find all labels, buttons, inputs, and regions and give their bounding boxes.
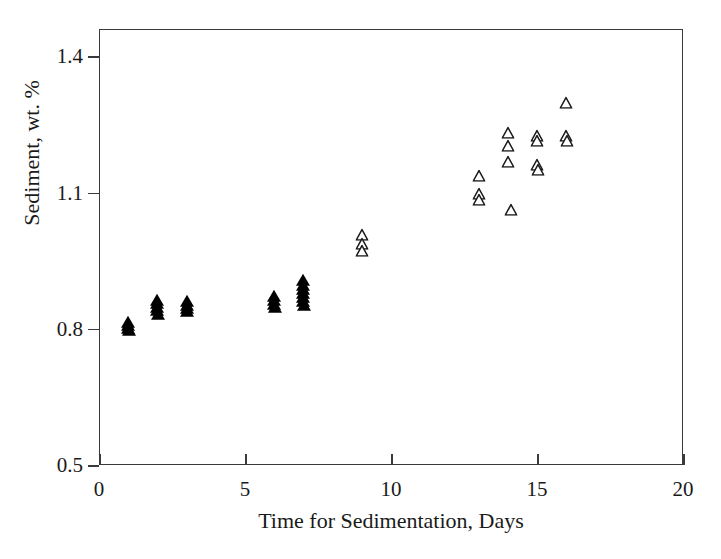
data-point-open-triangle-icon [504,203,517,215]
x-axis-label: Time for Sedimentation, Days [99,508,683,534]
y-tick-mark [88,56,99,58]
data-point-filled-triangle-icon [180,305,194,317]
x-tick-label: 20 [673,477,694,502]
y-tick-label: 0.5 [57,453,83,478]
y-axis-label: Sediment, wt. % [19,43,45,263]
data-point-open-triangle-icon [356,245,369,257]
x-tick-label: 5 [240,477,251,502]
x-tick-label: 10 [381,477,402,502]
data-point-filled-triangle-icon [297,299,311,311]
x-tick-mark [391,454,393,465]
data-point-open-triangle-icon [531,163,544,175]
y-tick-label: 0.8 [57,316,83,341]
y-tick-mark [88,465,99,467]
x-tick-mark [245,454,247,465]
y-tick-label: 1.1 [57,180,83,205]
data-point-open-triangle-icon [560,97,573,109]
y-tick-label: 1.4 [57,44,83,69]
x-tick-label: 15 [527,477,548,502]
x-tick-mark [99,454,101,465]
data-point-filled-triangle-icon [268,301,282,313]
x-tick-mark [537,454,539,465]
x-tick-label: 0 [94,477,105,502]
data-point-open-triangle-icon [501,140,514,152]
data-point-open-triangle-icon [472,169,485,181]
x-tick-mark [683,454,685,465]
y-tick-mark [88,329,99,331]
plot-frame [99,29,683,465]
data-point-open-triangle-icon [560,134,573,146]
data-point-filled-triangle-icon [122,324,136,336]
data-point-filled-triangle-icon [151,308,165,320]
data-point-open-triangle-icon [501,127,514,139]
plot-area: 0.50.81.11.4 05101520 [99,29,683,465]
data-point-open-triangle-icon [501,156,514,168]
y-tick-mark [88,193,99,195]
sedimentation-scatter-figure: 0.50.81.11.4 05101520 Time for Sedimenta… [0,0,721,559]
data-point-open-triangle-icon [473,193,486,205]
data-point-open-triangle-icon [531,134,544,146]
